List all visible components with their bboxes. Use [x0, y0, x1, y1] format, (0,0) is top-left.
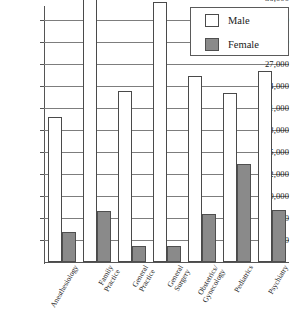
chart-legend: Male Female [190, 7, 289, 56]
bar-group [79, 0, 114, 262]
bar-group [114, 0, 149, 262]
bar-male [153, 2, 167, 262]
legend-item-male: Male [191, 8, 288, 32]
x-axis-label: Psychiatry [266, 264, 289, 296]
bar-male [188, 76, 202, 262]
bar-chart: 3,0006,0009,00012,00015,00018,00021,0002… [0, 0, 293, 334]
bar-female [167, 246, 181, 262]
bar-male [118, 91, 132, 262]
legend-label-male: Male [228, 15, 250, 26]
bar-female [132, 246, 146, 262]
x-axis-label: Obstetrics/Gynecology [194, 264, 227, 305]
legend-label-female: Female [228, 39, 259, 50]
x-axis-label: Anesthesiology [49, 264, 80, 309]
x-axis-label: Pediatrics [233, 264, 255, 294]
bar-male [48, 117, 62, 262]
legend-swatch-female-icon [205, 38, 219, 51]
bar-male [83, 0, 97, 262]
x-axis-label: GeneralSurgery [165, 264, 192, 293]
bar-male [258, 71, 272, 262]
x-axis-label: FamilyPractice [95, 264, 122, 294]
x-axis-labels: AnesthesiologyFamilyPracticeGeneralPract… [44, 264, 289, 334]
bar-female [237, 164, 251, 262]
legend-swatch-male-icon [205, 14, 219, 27]
bar-female [202, 214, 216, 262]
bar-female [97, 211, 111, 262]
x-axis-label: GeneralPractice [130, 264, 157, 294]
bar-female [62, 232, 76, 262]
bar-female [272, 210, 286, 262]
bar-group [149, 0, 184, 262]
legend-item-female: Female [191, 32, 288, 56]
bar-group [44, 0, 79, 262]
bar-male [223, 93, 237, 262]
